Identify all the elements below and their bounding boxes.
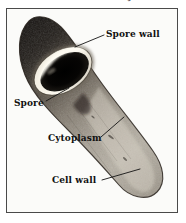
label-spore-wall: Spore wall	[106, 30, 160, 39]
label-cytoplasm: Cytoplasm	[48, 134, 102, 143]
label-spore: Spore	[14, 99, 44, 108]
running-header: Diagnostic Protozoa	[117, 0, 178, 1]
label-cell-wall: Cell wall	[52, 176, 96, 185]
figure-root: Diagnostic Protozoa	[0, 0, 186, 223]
